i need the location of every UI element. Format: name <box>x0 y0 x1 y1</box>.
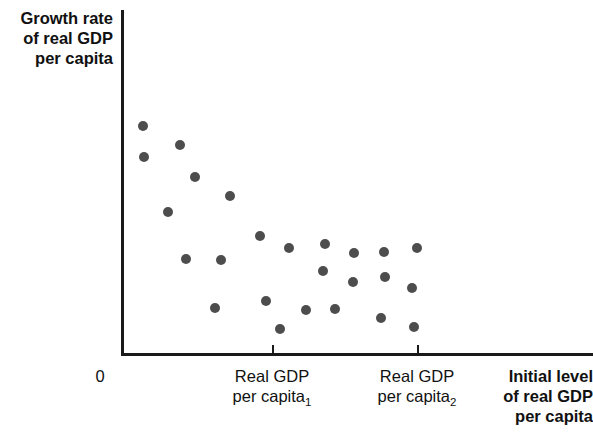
y-axis-title-line-3: per capita <box>35 49 113 67</box>
x-axis-title: Initial level of real GDP per capita <box>463 366 593 426</box>
scatter-point <box>275 324 285 334</box>
scatter-point <box>379 247 389 257</box>
scatter-point <box>175 140 185 150</box>
scatter-point <box>190 172 200 182</box>
scatter-point <box>412 243 422 253</box>
scatter-point <box>284 243 294 253</box>
x-tick-label-1-line-1: Real GDP <box>235 367 309 385</box>
scatter-point <box>320 239 330 249</box>
scatter-point <box>139 152 149 162</box>
y-axis-title: Growth rate of real GDP per capita <box>0 8 113 68</box>
scatter-point <box>181 254 191 264</box>
x-tick-label-2-line-2: per capita <box>378 387 450 405</box>
scatter-point <box>163 207 173 217</box>
x-tick-label-2-subscript: 2 <box>450 396 456 408</box>
scatter-point <box>138 121 148 131</box>
scatter-point <box>348 277 358 287</box>
scatter-chart-figure: Growth rate of real GDP per capita 0 Rea… <box>0 0 593 445</box>
x-axis-line <box>121 353 593 356</box>
x-axis-title-line-1: Initial level <box>509 367 593 385</box>
scatter-point <box>407 283 417 293</box>
x-tick-label-2-line-1: Real GDP <box>380 367 454 385</box>
x-axis-tick <box>417 345 419 355</box>
y-axis-title-line-2: of real GDP <box>23 29 113 47</box>
scatter-point <box>376 313 386 323</box>
scatter-point <box>409 322 419 332</box>
scatter-point <box>210 303 220 313</box>
scatter-point <box>301 305 311 315</box>
scatter-point <box>261 296 271 306</box>
x-tick-label-1-line-2: per capita <box>233 387 305 405</box>
scatter-point <box>380 272 390 282</box>
y-axis-line <box>121 10 124 356</box>
scatter-point <box>349 248 359 258</box>
x-tick-label-1-subscript: 1 <box>305 396 311 408</box>
y-axis-title-line-1: Growth rate <box>20 9 113 27</box>
scatter-point <box>216 255 226 265</box>
x-axis-title-line-2: of real GDP <box>503 387 593 405</box>
scatter-point <box>255 231 265 241</box>
scatter-point <box>318 266 328 276</box>
origin-label: 0 <box>88 366 112 386</box>
x-axis-title-line-3: per capita <box>515 407 593 425</box>
scatter-point <box>330 304 340 314</box>
x-axis-tick <box>272 345 274 355</box>
scatter-point <box>225 191 235 201</box>
